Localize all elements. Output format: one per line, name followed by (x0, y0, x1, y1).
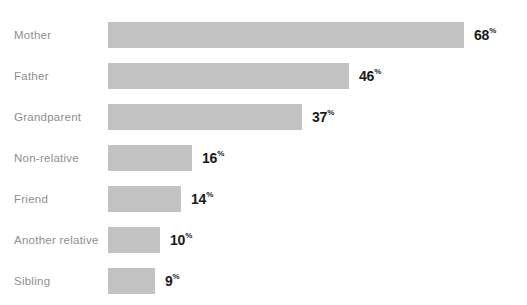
bar-row: Father46% (0, 55, 527, 96)
bar-value-label: 9% (165, 274, 180, 288)
percent-symbol: % (489, 26, 496, 35)
bar-row: Non-relative16% (0, 137, 527, 178)
bar-value-number: 46 (359, 68, 374, 84)
bar-category-label: Friend (14, 193, 48, 205)
bar-row: Friend14% (0, 178, 527, 219)
bar-value-label: 10% (170, 233, 192, 247)
bar-track: 46% (108, 63, 485, 89)
percent-symbol: % (206, 190, 213, 199)
bar-rows: Mother68%Father46%Grandparent37%Non-rela… (0, 14, 527, 301)
bar-category-label: Father (14, 70, 49, 82)
bar-value-number: 14 (191, 191, 206, 207)
percent-symbol: % (173, 272, 180, 281)
bar-value-label: 37% (312, 110, 334, 124)
bar-value-number: 10 (170, 232, 185, 248)
bar-fill (108, 22, 464, 48)
bar-value-label: 16% (202, 151, 224, 165)
bar-category-label: Grandparent (14, 111, 81, 123)
bar-fill (108, 227, 160, 253)
bar-track: 9% (108, 268, 485, 294)
bar-category-label: Sibling (14, 275, 50, 287)
bar-fill (108, 104, 302, 130)
bar-track: 14% (108, 186, 485, 212)
bar-category-label: Non-relative (14, 152, 79, 164)
bar-row: Mother68% (0, 14, 527, 55)
bar-value-label: 14% (191, 192, 213, 206)
bar-value-label: 68% (474, 28, 496, 42)
bar-fill (108, 268, 155, 294)
bar-fill (108, 63, 349, 89)
percent-symbol: % (327, 108, 334, 117)
bar-track: 10% (108, 227, 485, 253)
percent-symbol: % (217, 149, 224, 158)
bar-track: 16% (108, 145, 485, 171)
bar-track: 37% (108, 104, 485, 130)
bar-value-label: 46% (359, 69, 381, 83)
bar-category-label: Mother (14, 29, 51, 41)
bar-fill (108, 186, 181, 212)
chart-title: WHOSE FAITH INFLUENCED YOU? (14, 0, 238, 3)
percent-symbol: % (374, 67, 381, 76)
bar-chart: WHOSE FAITH INFLUENCED YOU? Mother68%Fat… (0, 0, 527, 305)
bar-value-number: 9 (165, 273, 173, 289)
bar-value-number: 37 (312, 109, 327, 125)
bar-value-number: 68 (474, 27, 489, 43)
bar-value-number: 16 (202, 150, 217, 166)
percent-symbol: % (185, 231, 192, 240)
bar-category-label: Another relative (14, 234, 99, 246)
bar-row: Another relative10% (0, 219, 527, 260)
bar-fill (108, 145, 192, 171)
bar-row: Sibling9% (0, 260, 527, 301)
bar-row: Grandparent37% (0, 96, 527, 137)
bar-track: 68% (108, 22, 485, 48)
